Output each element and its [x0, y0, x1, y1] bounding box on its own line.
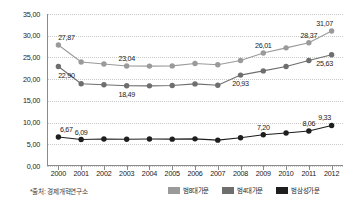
legend-label: 범삼성가문 — [291, 186, 320, 195]
x-axis-tick-label: 2010 — [278, 169, 293, 178]
x-axis-tick-label: 2002 — [96, 169, 111, 178]
data-point-label: 20,93 — [232, 79, 249, 88]
y-axis-tick-label: 30,00 — [0, 31, 40, 40]
legend-item-2[interactable]: 범4대가문 — [222, 186, 263, 195]
data-point-label: 31,07 — [316, 19, 333, 28]
legend-swatch — [168, 187, 180, 194]
x-axis-tick-label: 2003 — [119, 169, 134, 178]
data-point-label: 26,01 — [255, 41, 272, 50]
x-axis-tick-label: 2006 — [187, 169, 202, 178]
x-axis-tick-label: 2000 — [51, 169, 66, 178]
y-axis-tick-label: 0,00 — [0, 162, 40, 171]
data-point-label: 18,49 — [118, 90, 135, 99]
y-axis-tick-label: 10,00 — [0, 118, 40, 127]
legend-label: 범4대가문 — [237, 186, 263, 195]
y-axis-tick-label: 25,00 — [0, 53, 40, 62]
x-axis-tick-label: 2012 — [324, 169, 339, 178]
data-labels: 27,8723,0426,0128,3731,0722,9018,4920,93… — [47, 14, 343, 166]
x-axis-tick-label: 2011 — [302, 169, 317, 178]
data-point-label: 25,63 — [316, 59, 333, 68]
y-axis-tick-label: 20,00 — [0, 75, 40, 84]
legend: 범8대가문범4대가문범삼성가문 — [168, 185, 320, 196]
data-point-label: 27,87 — [58, 33, 75, 42]
x-axis-tick-label: 2005 — [165, 169, 180, 178]
x-axis-tick-label: 2008 — [233, 169, 248, 178]
data-point-label: 22,90 — [58, 71, 75, 80]
legend-item-3[interactable]: 범삼성가문 — [276, 186, 320, 195]
x-axis-tick-label: 2001 — [74, 169, 89, 178]
data-point-label: 6,67 — [60, 125, 73, 134]
x-axis-tick-label: 2007 — [210, 169, 225, 178]
x-axis-tick-label: 2004 — [142, 169, 157, 178]
x-axis-tick-label: 2009 — [256, 169, 271, 178]
data-point-label: 8,06 — [302, 119, 315, 128]
data-point-label: 7,20 — [257, 123, 270, 132]
data-point-label: 6,09 — [75, 128, 88, 137]
y-axis-tick-label: 5,00 — [0, 140, 40, 149]
x-axis-labels: 2000200120022003200420052006200720082009… — [47, 169, 343, 183]
legend-swatch — [222, 187, 234, 194]
data-point-label: 23,04 — [118, 54, 135, 63]
legend-label: 범8대가문 — [183, 186, 209, 195]
legend-item-1[interactable]: 범8대가문 — [168, 186, 209, 195]
y-axis-labels: 0,005,0010,0015,0020,0025,0030,0035,00 — [0, 14, 44, 166]
legend-swatch — [276, 187, 288, 194]
chart-figure: 0,005,0010,0015,0020,0025,0030,0035,00 2… — [0, 0, 354, 212]
y-axis-tick-label: 35,00 — [0, 10, 40, 19]
source-note: *출처: 경제개혁연구소 — [30, 186, 88, 196]
y-axis-tick-label: 15,00 — [0, 96, 40, 105]
data-point-label: 9,33 — [318, 113, 331, 122]
data-point-label: 28,37 — [301, 31, 318, 40]
